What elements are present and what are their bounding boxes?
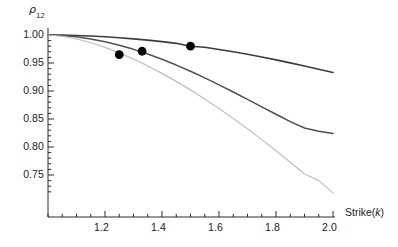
y-tick-label: 0.90 (14, 84, 44, 96)
x-tick-label: 1.2 (94, 221, 109, 233)
y-tick-label: 0.95 (14, 56, 44, 68)
x-tick-label: 1.8 (265, 221, 280, 233)
series-group (48, 35, 333, 193)
x-axis-label-text: Strike( (345, 206, 375, 218)
x-axis-label: Strike(k) (345, 206, 384, 218)
chart-canvas: ρ12 Strike(k) 1.21.41.61.82.00.750.800.8… (0, 0, 398, 247)
y-tick-label: 1.00 (14, 28, 44, 40)
data-point-1[interactable] (115, 50, 124, 59)
x-tick-label: 1.4 (151, 221, 166, 233)
curve-lower (48, 35, 333, 193)
curve-upper (48, 35, 333, 73)
x-tick-label: 2.0 (322, 221, 337, 233)
y-axis-label: ρ12 (29, 3, 44, 18)
plot-area (0, 0, 398, 247)
data-point-2[interactable] (138, 47, 147, 56)
rho-subscript: 12 (36, 11, 44, 20)
x-tick-label: 1.6 (208, 221, 223, 233)
x-axis-label-close: ) (381, 206, 385, 218)
y-tick-label: 0.80 (14, 140, 44, 152)
y-tick-label: 0.75 (14, 168, 44, 180)
y-tick-label: 0.85 (14, 112, 44, 124)
data-point-3[interactable] (186, 42, 195, 51)
rho-symbol: ρ (29, 3, 36, 16)
